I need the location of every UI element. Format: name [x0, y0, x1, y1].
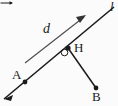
vector-d-overbar-icon	[0, 0, 13, 6]
line-l	[4, 7, 114, 99]
geometry-figure: d A H B l	[0, 0, 118, 106]
point-a-dot	[23, 80, 28, 85]
point-h-label: H	[74, 41, 83, 54]
point-h-dot	[65, 45, 70, 50]
point-a-label: A	[12, 68, 21, 81]
point-b-label: B	[92, 90, 101, 103]
line-l-label: l	[110, 0, 114, 13]
vector-d-label: d	[43, 22, 50, 36]
